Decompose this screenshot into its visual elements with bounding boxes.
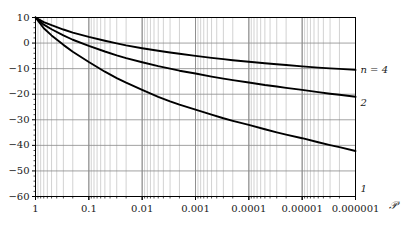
y-axis-tick-label: 0: [23, 38, 29, 48]
y-axis-tick-label: −30: [8, 115, 29, 125]
x-axis-tick-label: 0.00001: [281, 204, 322, 214]
y-axis-tick-label: −10: [8, 64, 29, 74]
y-axis-tick-label: −50: [8, 166, 29, 176]
x-axis-tick-label: 0.001: [181, 204, 210, 214]
chart-figure: 100−10−20−30−40−50−60 10.10.010.0010.000…: [0, 0, 410, 227]
curve-label-2: 2: [361, 98, 367, 108]
x-axis-tick-label: 0.01: [131, 204, 153, 214]
x-axis-tick-label: 0.000001: [332, 204, 380, 214]
x-axis-ticks: [36, 197, 356, 201]
y-axis-tick-label: −20: [8, 89, 29, 99]
x-axis-title: 𝒫: [389, 200, 397, 211]
curve-label-n-4: n = 4: [361, 65, 389, 75]
y-axis-tick-label: −60: [8, 192, 29, 202]
chart-plot-area: [0, 0, 410, 227]
x-axis-tick-label: 0.1: [81, 204, 97, 214]
x-axis-tick-label: 1: [32, 204, 38, 214]
curve-label-1: 1: [361, 184, 367, 194]
x-axis-tick-label: 0.0001: [231, 204, 266, 214]
y-axis-tick-label: 10: [17, 13, 30, 23]
y-axis-ticks: [32, 18, 36, 197]
y-axis-tick-label: −40: [8, 140, 29, 150]
